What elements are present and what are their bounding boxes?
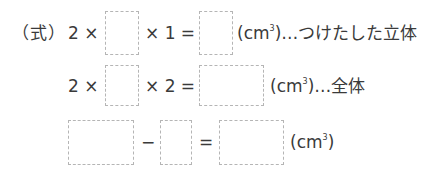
row1-factor: 2 × xyxy=(68,23,98,43)
unit-open: (cm xyxy=(270,76,303,96)
row2-unit: (cm3)…全体 xyxy=(270,76,365,96)
row2-factor: 2 × xyxy=(68,76,98,96)
row1-operator: × 1 = xyxy=(145,23,195,43)
row1-unit: (cm3)…つけたした立体 xyxy=(237,23,417,43)
row3-minus: − xyxy=(141,132,155,152)
unit-open: (cm xyxy=(290,132,323,152)
answer-box-6[interactable] xyxy=(160,120,192,165)
answer-box-3[interactable] xyxy=(105,65,139,106)
unit-close: ) xyxy=(328,132,335,152)
answer-box-2[interactable] xyxy=(199,11,233,55)
row1-note: …つけたした立体 xyxy=(281,23,417,43)
formula-label: （式） xyxy=(12,23,66,43)
answer-box-7[interactable] xyxy=(219,120,284,165)
answer-box-4[interactable] xyxy=(199,65,264,106)
answer-box-5[interactable] xyxy=(68,120,134,165)
unit-open: (cm xyxy=(237,23,270,43)
row2-operator: × 2 = xyxy=(145,76,195,96)
row3-unit: (cm3) xyxy=(290,132,334,152)
row2-note: …全体 xyxy=(314,76,365,96)
row3-equals: = xyxy=(199,132,213,152)
answer-box-1[interactable] xyxy=(105,11,139,55)
